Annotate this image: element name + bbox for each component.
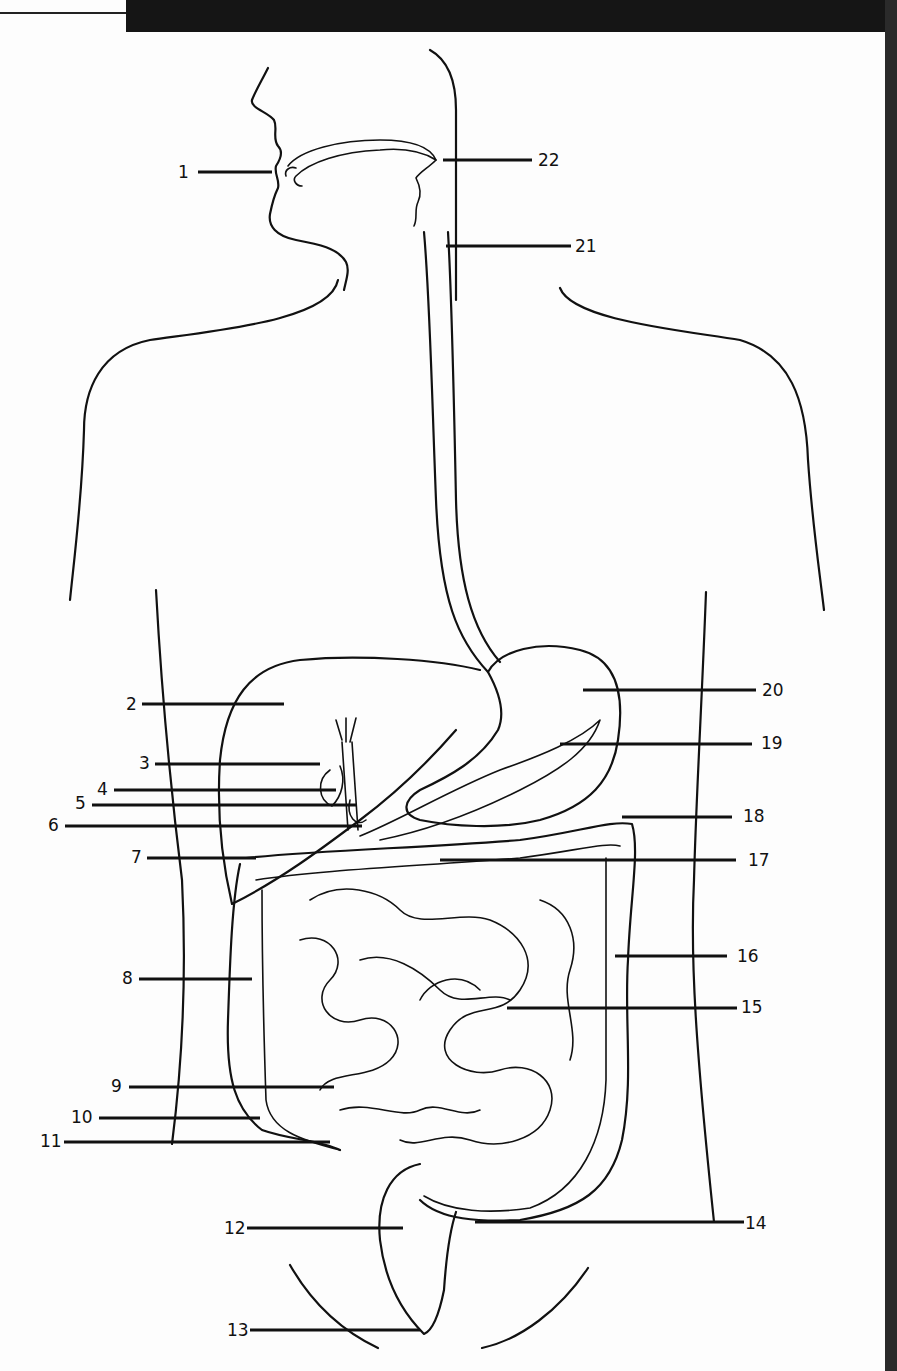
label-number-13: 13 <box>227 1320 249 1340</box>
label-number-9: 9 <box>111 1076 122 1096</box>
label-number-10: 10 <box>71 1107 93 1127</box>
label-number-16: 16 <box>737 946 759 966</box>
label-number-20: 20 <box>762 680 784 700</box>
label-number-22: 22 <box>538 150 560 170</box>
label-number-8: 8 <box>122 968 133 988</box>
pancreas <box>360 720 600 840</box>
diagram-page: 12345678910111213141516171819202122 <box>0 0 897 1371</box>
esophagus <box>424 232 500 672</box>
label-number-19: 19 <box>761 733 783 753</box>
label-number-17: 17 <box>748 850 770 870</box>
small-intestine <box>300 889 574 1144</box>
label-number-5: 5 <box>75 793 86 813</box>
label-number-21: 21 <box>575 236 597 256</box>
label-number-2: 2 <box>126 694 137 714</box>
label-number-3: 3 <box>139 753 150 773</box>
label-number-6: 6 <box>48 815 59 835</box>
label-number-14: 14 <box>745 1213 767 1233</box>
label-number-12: 12 <box>224 1218 246 1238</box>
torso-outline <box>70 280 824 1348</box>
label-number-15: 15 <box>741 997 763 1017</box>
rectum <box>379 1164 456 1334</box>
label-number-11: 11 <box>40 1131 62 1151</box>
large-intestine <box>228 823 635 1220</box>
label-number-4: 4 <box>97 779 108 799</box>
label-number-1: 1 <box>178 162 189 182</box>
label-number-18: 18 <box>743 806 765 826</box>
label-number-7: 7 <box>131 847 142 867</box>
digestive-system-diagram: 12345678910111213141516171819202122 <box>0 0 897 1371</box>
gallbladder <box>320 718 366 830</box>
